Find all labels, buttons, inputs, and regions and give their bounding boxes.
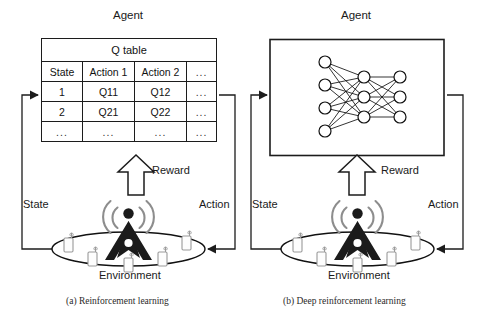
state-flow-arrow-panel-b <box>251 95 281 249</box>
figure-root: Agent Agent State Action State Action Re… <box>0 0 482 322</box>
mobile-phone-icon-panel-b-5 <box>411 231 420 250</box>
diagram-vector-layer <box>0 0 482 322</box>
mobile-phone-icon-panel-a-1 <box>64 233 73 252</box>
action-flow-arrow-panel-b <box>437 95 463 249</box>
reward-block-arrow-panel-a <box>118 155 154 195</box>
mobile-phone-icon-panel-a-4 <box>158 247 167 266</box>
action-flow-arrow-panel-a <box>208 95 235 249</box>
neural-network-hidden-layer <box>358 71 370 123</box>
mobile-phone-icon-panel-b-4 <box>387 247 396 266</box>
mobile-phone-icon-panel-a-3 <box>124 253 133 272</box>
state-flow-arrow-panel-a <box>22 95 52 249</box>
mobile-phone-icon-panel-b-3 <box>353 253 362 272</box>
mobile-phone-icon-panel-b-1 <box>293 233 302 252</box>
mobile-phone-icon-panel-b-2 <box>317 247 326 266</box>
panel-a-group <box>22 95 235 272</box>
mobile-phone-icon-panel-a-2 <box>88 247 97 266</box>
mobile-phone-icon-panel-a-5 <box>182 231 191 250</box>
panel-b-group <box>251 40 463 273</box>
agent-box-panel-b <box>270 40 444 156</box>
reward-block-arrow-panel-b <box>339 155 375 195</box>
neural-network-output-layer <box>394 71 406 123</box>
